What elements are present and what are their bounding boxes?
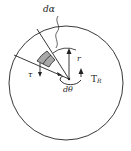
label-torque-sub: R (97, 77, 102, 84)
diagram-graphic (0, 0, 131, 151)
d-alpha-leader (56, 16, 59, 48)
shaft-cross-section (9, 26, 123, 140)
label-d-alpha: dα (43, 5, 55, 14)
d-theta-arc (60, 80, 81, 85)
radius-arrowhead (67, 48, 72, 54)
label-radius: r (77, 55, 81, 63)
torsion-diagram: dα r τ TR dθ (0, 0, 131, 151)
radial-line-upper (37, 29, 69, 79)
label-d-theta: dθ (63, 86, 73, 94)
span-arc (53, 48, 76, 53)
shear-arrowhead (38, 72, 42, 77)
d-theta-arc-left (60, 76, 63, 80)
label-torque: TR (91, 75, 102, 84)
center-point (68, 78, 70, 80)
label-shear: τ (28, 71, 32, 79)
torque-arrowhead (79, 68, 84, 74)
